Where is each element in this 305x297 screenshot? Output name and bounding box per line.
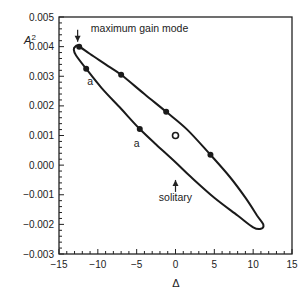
annotation-label: a — [134, 137, 140, 149]
y-tick-label: −0.003 — [23, 249, 54, 260]
annotation-label: solitary — [159, 191, 193, 203]
arrowhead-icon — [75, 36, 81, 42]
solitary-marker — [173, 133, 179, 139]
y-tick-label: −0.001 — [23, 189, 54, 200]
y-tick-label: 0.003 — [29, 71, 54, 82]
data-point-marker — [83, 66, 89, 72]
annotation-label: a — [87, 75, 93, 87]
y-tick-label: 0.001 — [29, 130, 54, 141]
x-tick-label: −5 — [131, 259, 143, 270]
axes: −15−10−50510150.0050.0040.0030.0020.0010… — [23, 12, 298, 271]
annotations: maximum gain modeaasolitary — [75, 22, 193, 203]
x-tick-label: 5 — [212, 259, 218, 270]
x-tick-label: 10 — [248, 259, 260, 270]
y-tick-label: 0.005 — [29, 12, 54, 23]
data-point-marker — [76, 44, 82, 50]
y-tick-label: 0.002 — [29, 100, 54, 111]
y-tick-label: 0.004 — [29, 41, 54, 52]
data-point-marker — [137, 126, 143, 132]
x-axis-label: Δ — [172, 277, 180, 289]
x-tick-label: 15 — [286, 259, 298, 270]
y-tick-label: −0.002 — [23, 219, 54, 230]
chart: −15−10−50510150.0050.0040.0030.0020.0010… — [0, 0, 305, 297]
arrowhead-icon — [173, 180, 179, 186]
data-point-marker — [207, 152, 213, 158]
data-point-marker — [118, 72, 124, 78]
annotation-label: maximum gain mode — [91, 22, 189, 34]
x-tick-label: −10 — [89, 259, 106, 270]
x-tick-label: −15 — [51, 259, 68, 270]
y-tick-label: 0.000 — [29, 160, 54, 171]
data-point-marker — [163, 109, 169, 115]
x-tick-label: 0 — [173, 259, 179, 270]
